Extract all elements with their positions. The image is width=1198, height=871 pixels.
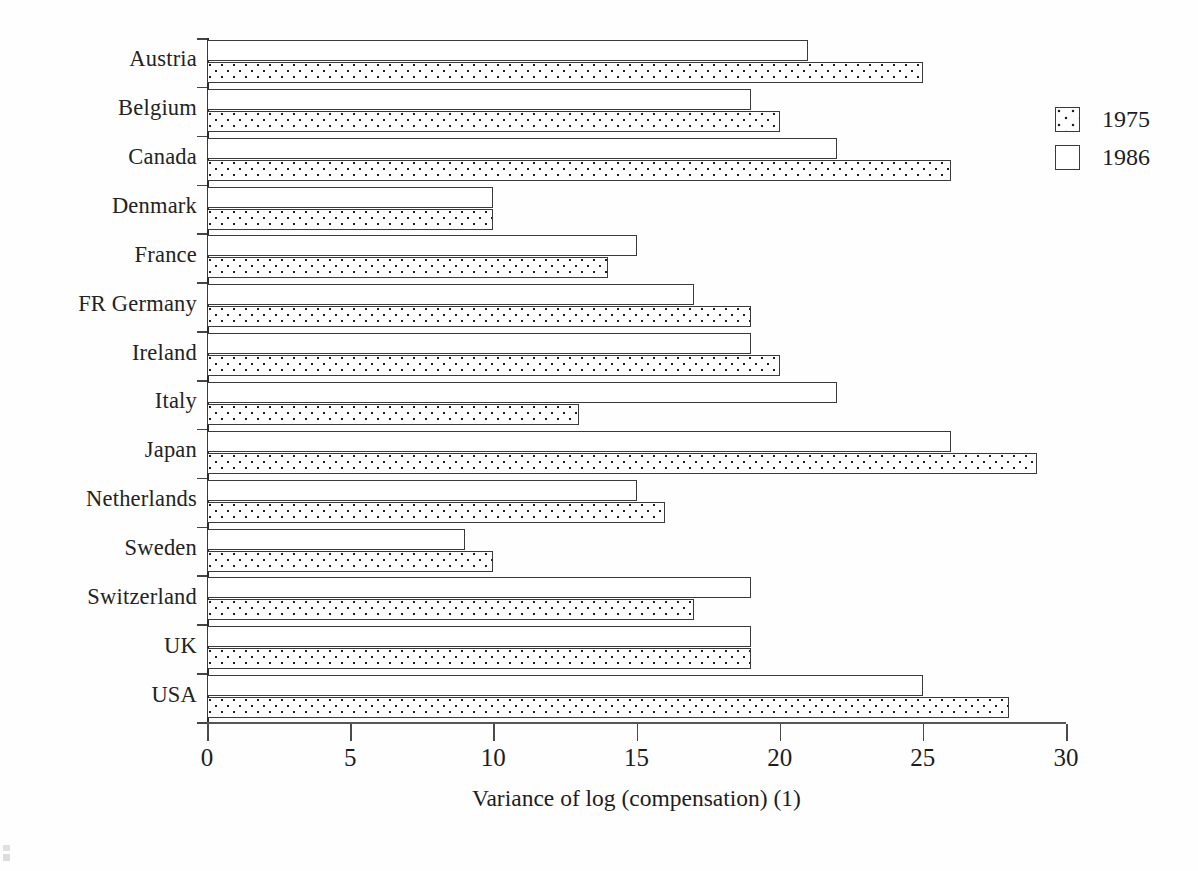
category-axis-labels: AustriaBelgiumCanadaDenmarkFranceFR Germ… bbox=[0, 38, 197, 722]
bar-1975 bbox=[207, 453, 1037, 474]
bar-1986 bbox=[207, 284, 694, 305]
x-axis-tick-label: 25 bbox=[910, 744, 935, 772]
bar-group bbox=[207, 136, 1066, 185]
category-label-belgium: Belgium bbox=[7, 97, 197, 119]
bar-1975 bbox=[207, 111, 780, 132]
category-label-fr-germany: FR Germany bbox=[7, 293, 197, 315]
bar-1986 bbox=[207, 138, 837, 159]
bar-1986 bbox=[207, 333, 751, 354]
y-axis-tick bbox=[197, 331, 207, 333]
bar-1986 bbox=[207, 626, 751, 647]
bar-group bbox=[207, 380, 1066, 429]
bar-1986 bbox=[207, 675, 923, 696]
y-axis-tick bbox=[197, 429, 207, 431]
bar-group bbox=[207, 185, 1066, 234]
bar-group bbox=[207, 331, 1066, 380]
category-label-sweden: Sweden bbox=[7, 537, 197, 559]
x-axis: 051015202530 bbox=[207, 724, 1066, 794]
bar-1986 bbox=[207, 529, 465, 550]
bar-group bbox=[207, 429, 1066, 478]
category-label-austria: Austria bbox=[7, 48, 197, 70]
x-axis-tick-label: 10 bbox=[481, 744, 506, 772]
y-axis-tick bbox=[197, 87, 207, 89]
open-square-swatch-icon bbox=[1055, 145, 1080, 170]
bar-1986 bbox=[207, 187, 493, 208]
dotted-square-swatch-icon bbox=[1055, 107, 1080, 132]
x-axis-tick bbox=[923, 724, 925, 741]
y-axis-tick bbox=[197, 282, 207, 284]
legend: 1975 1986 bbox=[1055, 100, 1195, 176]
y-axis-tick bbox=[197, 38, 207, 40]
bar-1975 bbox=[207, 551, 493, 572]
scan-artifact bbox=[3, 845, 10, 861]
bar-group bbox=[207, 673, 1066, 722]
legend-label-1975: 1975 bbox=[1102, 106, 1150, 133]
bar-group bbox=[207, 87, 1066, 136]
x-axis-tick bbox=[207, 724, 209, 741]
bar-1986 bbox=[207, 89, 751, 110]
bar-1975 bbox=[207, 648, 751, 669]
category-label-uk: UK bbox=[7, 635, 197, 657]
category-label-canada: Canada bbox=[7, 146, 197, 168]
x-axis-tick bbox=[350, 724, 352, 741]
x-axis-tick-label: 5 bbox=[344, 744, 357, 772]
category-label-netherlands: Netherlands bbox=[7, 488, 197, 510]
category-label-switzerland: Switzerland bbox=[7, 586, 197, 608]
x-axis-tick-label: 20 bbox=[767, 744, 792, 772]
bar-1986 bbox=[207, 40, 808, 61]
x-axis-tick bbox=[780, 724, 782, 741]
bar-group bbox=[207, 527, 1066, 576]
y-axis-tick bbox=[197, 575, 207, 577]
plot-area bbox=[207, 38, 1066, 722]
bar-group bbox=[207, 38, 1066, 87]
bar-1986 bbox=[207, 382, 837, 403]
y-axis-tick bbox=[197, 527, 207, 529]
legend-label-1986: 1986 bbox=[1102, 144, 1150, 171]
y-axis-tick bbox=[197, 233, 207, 235]
x-axis-tick bbox=[493, 724, 495, 741]
y-axis-tick bbox=[197, 624, 207, 626]
bar-chart: AustriaBelgiumCanadaDenmarkFranceFR Germ… bbox=[0, 0, 1198, 871]
bar-group bbox=[207, 624, 1066, 673]
y-axis-tick bbox=[197, 478, 207, 480]
bar-1975 bbox=[207, 209, 493, 230]
category-label-ireland: Ireland bbox=[7, 342, 197, 364]
bar-1986 bbox=[207, 480, 637, 501]
y-axis-tick bbox=[197, 722, 207, 724]
category-label-usa: USA bbox=[7, 684, 197, 706]
x-axis-tick-label: 30 bbox=[1054, 744, 1079, 772]
y-axis-tick bbox=[197, 380, 207, 382]
x-axis-title: Variance of log (compensation) (1) bbox=[207, 785, 1066, 812]
x-axis-tick bbox=[1066, 724, 1068, 741]
legend-item-1986: 1986 bbox=[1055, 138, 1195, 176]
bar-1975 bbox=[207, 502, 665, 523]
legend-item-1975: 1975 bbox=[1055, 100, 1195, 138]
category-label-japan: Japan bbox=[7, 439, 197, 461]
y-axis-tick bbox=[197, 673, 207, 675]
y-axis-tick bbox=[197, 185, 207, 187]
y-axis-tick bbox=[197, 136, 207, 138]
bar-1986 bbox=[207, 431, 951, 452]
bar-1975 bbox=[207, 355, 780, 376]
bar-1975 bbox=[207, 257, 608, 278]
x-axis-tick-label: 0 bbox=[201, 744, 214, 772]
bar-1975 bbox=[207, 404, 579, 425]
category-label-italy: Italy bbox=[7, 390, 197, 412]
x-axis-tick bbox=[637, 724, 639, 741]
x-axis-tick-label: 15 bbox=[624, 744, 649, 772]
bar-1975 bbox=[207, 599, 694, 620]
bar-group bbox=[207, 478, 1066, 527]
bar-1975 bbox=[207, 62, 923, 83]
bar-group bbox=[207, 233, 1066, 282]
bar-1986 bbox=[207, 235, 637, 256]
bar-group bbox=[207, 282, 1066, 331]
bar-1975 bbox=[207, 697, 1009, 718]
bar-1975 bbox=[207, 160, 951, 181]
bar-1986 bbox=[207, 577, 751, 598]
category-label-denmark: Denmark bbox=[7, 195, 197, 217]
category-label-france: France bbox=[7, 244, 197, 266]
bar-group bbox=[207, 575, 1066, 624]
bar-1975 bbox=[207, 306, 751, 327]
